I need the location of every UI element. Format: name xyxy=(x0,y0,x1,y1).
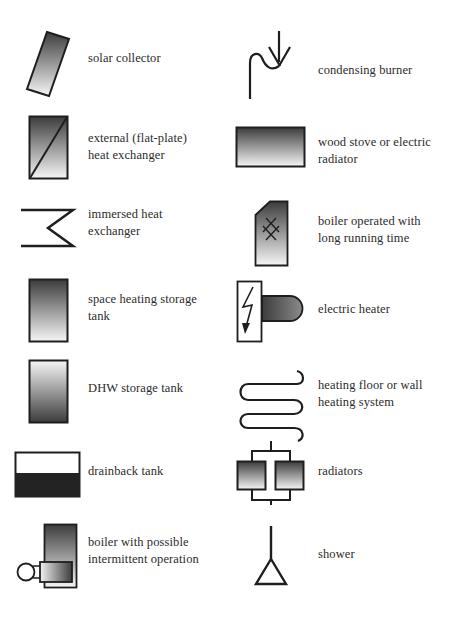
legend-label-wood-stove: wood stove or electric radiator xyxy=(318,134,431,167)
electric-heater-icon xyxy=(238,282,303,342)
immersed-heat-exchanger-icon xyxy=(21,210,73,246)
wood-stove-icon xyxy=(237,128,305,167)
legend-label-floor-wall-heating: heating floor or wall heating system xyxy=(318,377,423,410)
legend-label-space-heating-tank: space heating storage tank xyxy=(88,291,197,324)
boiler-intermittent-icon xyxy=(18,525,77,588)
legend-label-radiators: radiators xyxy=(318,463,363,480)
legend-label-external-heat-exchanger: external (flat-plate) heat exchanger xyxy=(88,130,187,163)
flat-plate-heat-exchanger-icon xyxy=(30,117,68,179)
condensing-burner-icon xyxy=(250,31,290,99)
legend-label-immersed-heat-exchanger: immersed heat exchanger xyxy=(88,206,163,239)
radiators-icon xyxy=(238,441,304,505)
symbol-legend-diagram xyxy=(0,0,466,625)
space-heating-tank-icon xyxy=(30,280,68,342)
solar-collector-icon xyxy=(27,32,69,96)
drainback-tank-icon xyxy=(15,453,80,498)
legend-label-shower: shower xyxy=(318,546,355,563)
floor-heating-coil-icon xyxy=(241,371,304,441)
legend-label-boiler-intermittent: boiler with possible intermittent operat… xyxy=(88,534,199,567)
legend-label-electric-heater: electric heater xyxy=(318,301,390,318)
legend-label-condensing-burner: condensing burner xyxy=(318,62,412,79)
boiler-long-running-icon xyxy=(256,202,288,266)
legend-label-boiler-long-running: boiler operated with long running time xyxy=(318,213,421,246)
legend-label-drainback-tank: drainback tank xyxy=(88,463,163,480)
dhw-tank-icon xyxy=(30,361,68,423)
legend-label-dhw-tank: DHW storage tank xyxy=(88,380,183,397)
legend-label-solar-collector: solar collector xyxy=(88,50,161,67)
shower-icon xyxy=(256,526,286,584)
